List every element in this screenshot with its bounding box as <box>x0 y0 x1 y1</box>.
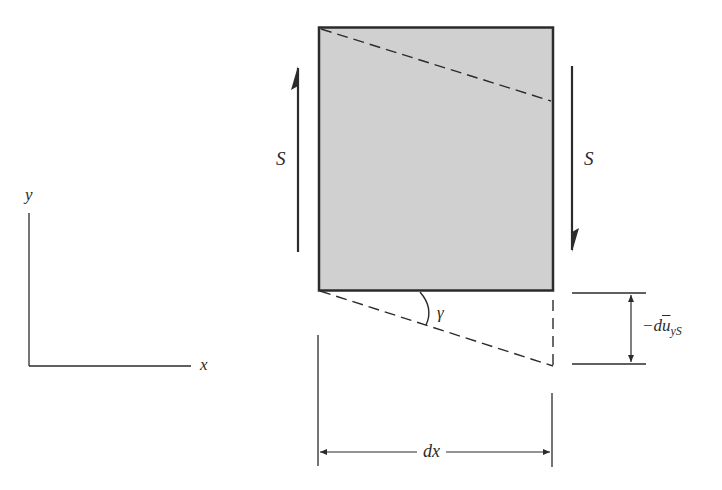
displacement-prefix: −d <box>642 316 662 335</box>
displacement-subscript: yS <box>670 324 681 338</box>
shear-deformation-diagram: S S γ −duyS dx y x <box>0 0 722 490</box>
gamma-label: γ <box>437 304 444 321</box>
diagram-graphics <box>0 0 722 490</box>
shear-label-right: S <box>584 149 594 168</box>
shear-arrow-right <box>572 66 579 252</box>
width-label: dx <box>417 442 446 460</box>
beam-element <box>319 28 553 291</box>
coordinate-axes <box>29 213 191 366</box>
shear-arrow-left <box>291 66 298 252</box>
axis-x-label: x <box>200 356 208 373</box>
displacement-dimension <box>572 293 646 364</box>
axis-y-label: y <box>25 186 33 203</box>
shear-label-left: S <box>276 149 286 168</box>
displacement-label: −duyS <box>642 317 682 337</box>
gamma-angle-arc <box>420 292 429 325</box>
